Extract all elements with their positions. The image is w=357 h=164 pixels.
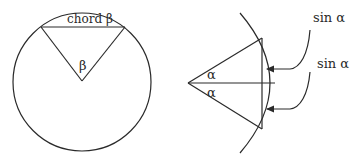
- angle-alpha-top-label: α: [207, 67, 216, 82]
- diagram-canvas: chord β β α α sin α sin α: [0, 0, 357, 164]
- sin-alpha-bottom-label: sin α: [317, 56, 349, 71]
- circle: [13, 13, 151, 151]
- chord-label: chord β: [67, 12, 113, 26]
- radius-left: [41, 27, 82, 81]
- right-figure: α α sin α sin α: [188, 10, 349, 153]
- angle-beta-label: β: [79, 58, 87, 73]
- sin-alpha-top-label: sin α: [313, 10, 345, 25]
- radius-right: [82, 27, 125, 81]
- angle-alpha-bottom-label: α: [207, 85, 216, 100]
- arrow-sin-bottom: [267, 72, 310, 109]
- arrow-sin-top: [267, 30, 310, 69]
- left-figure: chord β β: [13, 12, 151, 151]
- ray-bottom: [188, 83, 262, 129]
- ray-top: [188, 38, 262, 83]
